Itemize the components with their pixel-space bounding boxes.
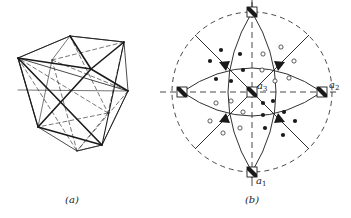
polyhedron-drawing <box>18 36 128 151</box>
triangle-marker-se <box>274 113 285 123</box>
label-a3: a3 <box>257 80 267 93</box>
triangle-marker-nw <box>219 61 230 71</box>
caption-b: (b) <box>245 194 259 205</box>
triangle-marker-ne <box>274 61 285 71</box>
square-marker-top <box>247 7 257 17</box>
figure-canvas: (a) <box>0 0 351 218</box>
square-marker-left <box>177 87 187 97</box>
square-marker-right <box>317 87 327 97</box>
square-marker-center <box>247 87 257 97</box>
caption-a: (a) <box>65 194 79 205</box>
label-a2: a2 <box>329 79 339 92</box>
label-a1: a1 <box>256 175 266 188</box>
triangle-marker-sw <box>219 113 230 123</box>
